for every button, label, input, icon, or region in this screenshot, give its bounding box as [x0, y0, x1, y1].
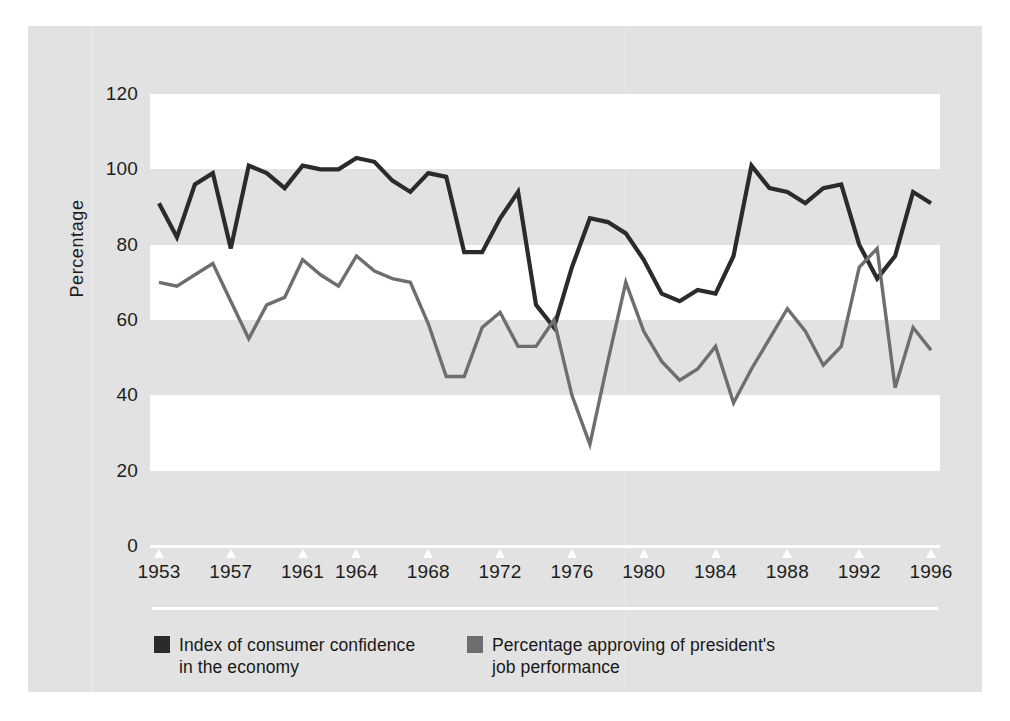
x-tick-label-1968: 1968	[388, 561, 468, 583]
y-tick-80: 80	[92, 234, 138, 256]
line-presidential-approval	[159, 248, 931, 444]
y-tick-20: 20	[92, 460, 138, 482]
chart-figure: 120 100 80 60 40 20 0 Percentage 1953195…	[0, 0, 1010, 721]
legend-label-consumer-confidence: Index of consumer confidence in the econ…	[179, 634, 415, 678]
legend-label-presidential-approval: Percentage approving of president's job …	[492, 634, 775, 678]
legend-item-presidential-approval: Percentage approving of president's job …	[467, 634, 775, 678]
x-tick-label-1996: 1996	[891, 561, 971, 583]
x-tick-mark-1968	[423, 549, 433, 558]
y-tick-100: 100	[92, 158, 138, 180]
x-tick-mark-1988	[782, 549, 792, 558]
x-tick-mark-1996	[926, 549, 936, 558]
x-tick-label-1964: 1964	[316, 561, 396, 583]
x-tick-label-1988: 1988	[747, 561, 827, 583]
x-tick-mark-1992	[854, 549, 864, 558]
x-tick-label-1953: 1953	[119, 561, 199, 583]
y-tick-40: 40	[92, 384, 138, 406]
x-axis-line	[150, 545, 940, 548]
x-tick-mark-1972	[495, 549, 505, 558]
x-tick-mark-1984	[711, 549, 721, 558]
x-tick-label-1980: 1980	[604, 561, 684, 583]
y-tick-120: 120	[92, 83, 138, 105]
y-axis-title: Percentage	[67, 169, 88, 329]
x-tick-mark-1953	[154, 549, 164, 558]
legend-item-consumer-confidence: Index of consumer confidence in the econ…	[154, 634, 415, 678]
x-tick-label-1992: 1992	[819, 561, 899, 583]
x-tick-label-1957: 1957	[191, 561, 271, 583]
y-tick-0: 0	[92, 535, 138, 557]
x-tick-mark-1980	[639, 549, 649, 558]
x-tick-label-1972: 1972	[460, 561, 540, 583]
x-tick-mark-1961	[298, 549, 308, 558]
legend-swatch-approval	[467, 636, 483, 653]
y-axis-tick-labels: 120 100 80 60 40 20 0	[92, 94, 138, 546]
x-tick-label-1984: 1984	[676, 561, 756, 583]
x-tick-mark-1964	[351, 549, 361, 558]
y-tick-60: 60	[92, 309, 138, 331]
chart-legend: Index of consumer confidence in the econ…	[150, 634, 940, 694]
legend-separator-rule	[152, 607, 938, 610]
x-tick-label-1976: 1976	[532, 561, 612, 583]
series-lines	[150, 94, 940, 546]
plot-area	[150, 94, 940, 546]
x-tick-mark-1957	[226, 549, 236, 558]
legend-swatch-consumer-confidence	[154, 636, 170, 653]
x-tick-mark-1976	[567, 549, 577, 558]
